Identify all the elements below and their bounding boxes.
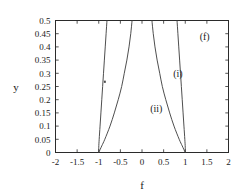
x-tick-label: 0.5 xyxy=(158,157,170,167)
y-tick-label: 0.1 xyxy=(39,121,50,131)
x-tick-label: 2 xyxy=(226,157,231,167)
y-tick-label: 0.35 xyxy=(35,55,51,65)
y-tick-label: 0.5 xyxy=(39,16,51,26)
curve-annotation-label: (i) xyxy=(173,68,182,80)
y-tick-label: 0 xyxy=(46,148,51,158)
y-tick-label: 0.25 xyxy=(35,82,51,92)
y-tick-label: 0.15 xyxy=(35,108,51,118)
y-tick-label: 0.45 xyxy=(35,29,51,39)
x-tick-label: -0.5 xyxy=(113,157,128,167)
x-tick-label: 1.5 xyxy=(201,157,213,167)
y-tick-label: 0.05 xyxy=(35,135,51,145)
panel-label: (f) xyxy=(200,31,210,43)
x-tick-label: -1 xyxy=(95,157,103,167)
curve-annotation-label: (ii) xyxy=(150,103,162,115)
data-curve xyxy=(152,21,185,153)
x-tick-label: 0 xyxy=(140,157,145,167)
y-tick-label: 0.2 xyxy=(39,95,50,105)
data-curve xyxy=(99,21,107,153)
y-tick-label: 0.3 xyxy=(39,69,51,79)
data-curve xyxy=(99,21,132,153)
x-tick-label: 1 xyxy=(183,157,188,167)
y-tick-label: 0.4 xyxy=(39,42,51,52)
chart-figure: -2-1.5-1-0.500.511.5200.050.10.150.20.25… xyxy=(0,0,246,196)
plot-canvas: -2-1.5-1-0.500.511.5200.050.10.150.20.25… xyxy=(0,0,246,196)
x-axis-title: f xyxy=(140,179,144,191)
plot-marker-speck xyxy=(104,81,106,83)
x-tick-label: -1.5 xyxy=(70,157,85,167)
y-axis-title: y xyxy=(13,81,19,93)
x-tick-label: -2 xyxy=(52,157,60,167)
data-curve xyxy=(177,21,185,153)
